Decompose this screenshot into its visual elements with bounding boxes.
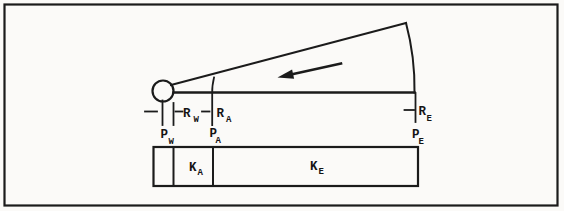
label-r-a-main: R <box>217 107 225 121</box>
wedge-pressure-diagram: R W R A R E P W P A P E <box>0 0 564 211</box>
label-p-w: P W <box>161 125 178 147</box>
diagram-lines <box>145 23 418 186</box>
label-k-a-sub: A <box>198 168 204 178</box>
label-p-e-sub: E <box>419 137 425 147</box>
direction-arrow-icon <box>278 64 342 79</box>
label-p-e: P E <box>412 125 429 148</box>
ra-radius-tick <box>212 78 214 126</box>
diagram-labels: R W R A R E P W P A P E <box>161 102 436 178</box>
label-r-e-main: R <box>419 105 427 119</box>
label-r-a: R A <box>217 104 234 126</box>
label-r-w-main: R <box>183 107 191 121</box>
label-p-w-sub: W <box>169 137 175 147</box>
label-k-a: K A <box>189 158 206 179</box>
vertex-circle <box>153 81 174 102</box>
arrow-head <box>278 69 295 78</box>
arrow-shaft <box>290 64 341 75</box>
label-p-a: P A <box>210 124 227 147</box>
label-r-a-sub: A <box>226 115 232 125</box>
label-r-w-sub: W <box>194 115 200 125</box>
label-p-a-sub: A <box>216 136 222 146</box>
label-r-e: R E <box>419 102 436 124</box>
label-p-w-main: P <box>161 128 169 142</box>
wedge-arc-edge <box>406 23 415 93</box>
label-k-e-sub: E <box>319 167 325 177</box>
label-k-a-main: K <box>189 161 197 175</box>
label-r-w: R W <box>183 104 200 125</box>
label-r-e-sub: E <box>427 114 433 124</box>
label-k-e-main: K <box>310 160 318 174</box>
label-k-e: K E <box>310 157 327 178</box>
figure-border <box>5 5 558 206</box>
figure-canvas: R W R A R E P W P A P E <box>0 0 564 211</box>
